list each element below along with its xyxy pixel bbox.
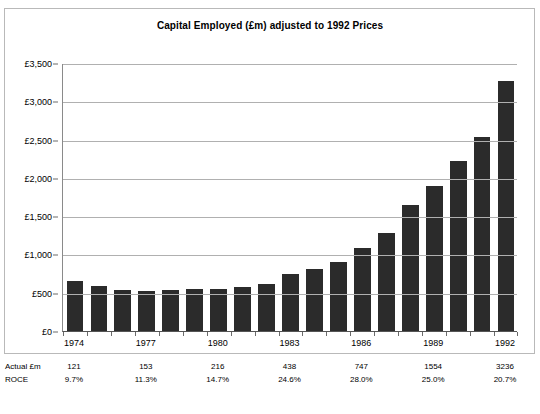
x-axis-tick-mark	[183, 332, 184, 336]
bar	[186, 289, 203, 331]
x-axis-tick-mark	[159, 332, 160, 336]
plot-area	[62, 64, 517, 332]
x-axis-tick-label: 1980	[208, 338, 228, 348]
y-axis: £0£500£1,000£1,500£2,000£2,500£3,000£3,5…	[0, 64, 58, 332]
table-cell: 3236	[496, 362, 514, 371]
y-axis-tick-mark	[53, 140, 58, 141]
gridline	[63, 64, 517, 65]
table-cell: 438	[283, 362, 296, 371]
table-row-label: Actual £m	[5, 362, 41, 371]
y-axis-tick-label: £3,000	[24, 97, 52, 107]
table-cell: 1554	[424, 362, 442, 371]
x-axis-tick-mark	[470, 332, 471, 336]
gridline	[63, 102, 517, 103]
table-cell: 9.7%	[65, 375, 83, 384]
y-axis-tick-mark	[53, 178, 58, 179]
x-axis-tick-mark	[207, 332, 208, 336]
gridline	[63, 141, 517, 142]
chart-page: Capital Employed (£m) adjusted to 1992 P…	[0, 0, 540, 414]
table-cell: 747	[355, 362, 368, 371]
table-row-label: ROCE	[5, 375, 28, 384]
x-axis-tick-mark	[255, 332, 256, 336]
x-axis-tick-mark	[302, 332, 303, 336]
x-axis-tick-mark	[398, 332, 399, 336]
x-axis-tick-mark	[111, 332, 112, 336]
x-axis-tick-label: 1974	[64, 338, 84, 348]
y-axis-tick-mark	[53, 64, 58, 65]
table-row: Actual £m12115321643874715543236	[0, 362, 540, 375]
bar	[402, 205, 419, 331]
x-axis-tick-mark	[422, 332, 423, 336]
y-axis-tick-label: £500	[32, 289, 52, 299]
x-axis-tick-label: 1992	[495, 338, 515, 348]
x-axis-tick-mark	[279, 332, 280, 336]
x-axis-tick-mark	[63, 332, 64, 336]
x-axis-tick-label: 1986	[351, 338, 371, 348]
y-axis-tick-label: £1,000	[24, 250, 52, 260]
table-cell: 14.7%	[206, 375, 229, 384]
gridline	[63, 294, 517, 295]
x-axis-tick-mark	[135, 332, 136, 336]
table-row: ROCE9.7%11.3%14.7%24.6%28.0%25.0%20.7%	[0, 375, 540, 388]
table-cell: 121	[67, 362, 80, 371]
table-cell: 216	[211, 362, 224, 371]
bar	[354, 248, 371, 331]
x-axis-tick-mark	[326, 332, 327, 336]
x-axis-tick-mark	[446, 332, 447, 336]
gridline	[63, 217, 517, 218]
y-axis-tick-mark	[53, 255, 58, 256]
x-axis-tick-label: 1977	[136, 338, 156, 348]
bar	[306, 269, 323, 331]
gridline	[63, 179, 517, 180]
table-cell: 28.0%	[350, 375, 373, 384]
bar	[67, 281, 84, 331]
table-cell: 11.3%	[135, 375, 157, 384]
table-cell: 24.6%	[278, 375, 301, 384]
bar	[450, 161, 467, 331]
y-axis-tick-mark	[53, 102, 58, 103]
bar	[138, 291, 155, 331]
table-cell: 20.7%	[494, 375, 517, 384]
x-axis-tick-mark	[231, 332, 232, 336]
bar	[282, 274, 299, 331]
bar	[210, 289, 227, 331]
table-cell: 153	[139, 362, 152, 371]
y-axis-tick-mark	[53, 217, 58, 218]
x-axis: 1974197719801983198619891992	[62, 338, 517, 354]
y-axis-tick-label: £2,000	[24, 174, 52, 184]
x-axis-tick-mark	[494, 332, 495, 336]
x-axis-tick-label: 1989	[423, 338, 443, 348]
bar	[162, 290, 179, 331]
x-axis-tick-label: 1983	[279, 338, 299, 348]
y-axis-tick-label: £2,500	[24, 136, 52, 146]
y-axis-tick-label: £0	[42, 327, 52, 337]
bar	[258, 284, 275, 331]
chart-title: Capital Employed (£m) adjusted to 1992 P…	[0, 20, 540, 31]
table-cell: 25.0%	[422, 375, 445, 384]
y-axis-tick-label: £1,500	[24, 212, 52, 222]
x-axis-tick-mark	[350, 332, 351, 336]
x-axis-tick-mark	[517, 332, 518, 336]
y-axis-tick-mark	[53, 293, 58, 294]
bar-series	[63, 64, 517, 331]
bar	[114, 290, 131, 331]
bar	[426, 186, 443, 331]
y-axis-tick-mark	[53, 332, 58, 333]
bar	[474, 137, 491, 331]
data-table: Actual £m12115321643874715543236ROCE9.7%…	[0, 362, 540, 392]
bar	[378, 233, 395, 331]
y-axis-tick-label: £3,500	[24, 59, 52, 69]
x-axis-tick-mark	[87, 332, 88, 336]
gridline	[63, 255, 517, 256]
bar	[330, 262, 347, 331]
x-axis-tick-mark	[374, 332, 375, 336]
